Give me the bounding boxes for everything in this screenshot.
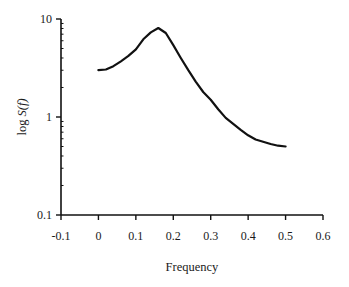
y-axis-title: log S(f) bbox=[15, 98, 29, 135]
series-line bbox=[98, 28, 285, 147]
y-tick-label: 10 bbox=[40, 12, 52, 26]
y-tick-label: 0.1 bbox=[37, 208, 52, 222]
x-tick-label: 0.1 bbox=[128, 229, 143, 243]
x-tick-label: -0.1 bbox=[52, 229, 71, 243]
x-tick-label: 0.6 bbox=[316, 229, 331, 243]
y-axis-title-italic: S(f) bbox=[15, 98, 29, 116]
x-tick-label: 0.2 bbox=[166, 229, 181, 243]
x-axis: -0.100.10.20.30.40.50.6 bbox=[52, 215, 331, 243]
chart: 0.1110 -0.100.10.20.30.40.50.6 Frequency… bbox=[0, 0, 349, 287]
x-axis-title: Frequency bbox=[166, 260, 220, 274]
x-tick-label: 0.4 bbox=[241, 229, 256, 243]
y-axis: 0.1110 bbox=[37, 12, 64, 222]
x-tick-label: 0.5 bbox=[278, 229, 293, 243]
data-series bbox=[98, 28, 285, 147]
x-tick-label: 0.3 bbox=[203, 229, 218, 243]
y-tick-label: 1 bbox=[46, 110, 52, 124]
x-tick-label: 0 bbox=[95, 229, 101, 243]
y-axis-title-prefix: log bbox=[15, 116, 29, 135]
